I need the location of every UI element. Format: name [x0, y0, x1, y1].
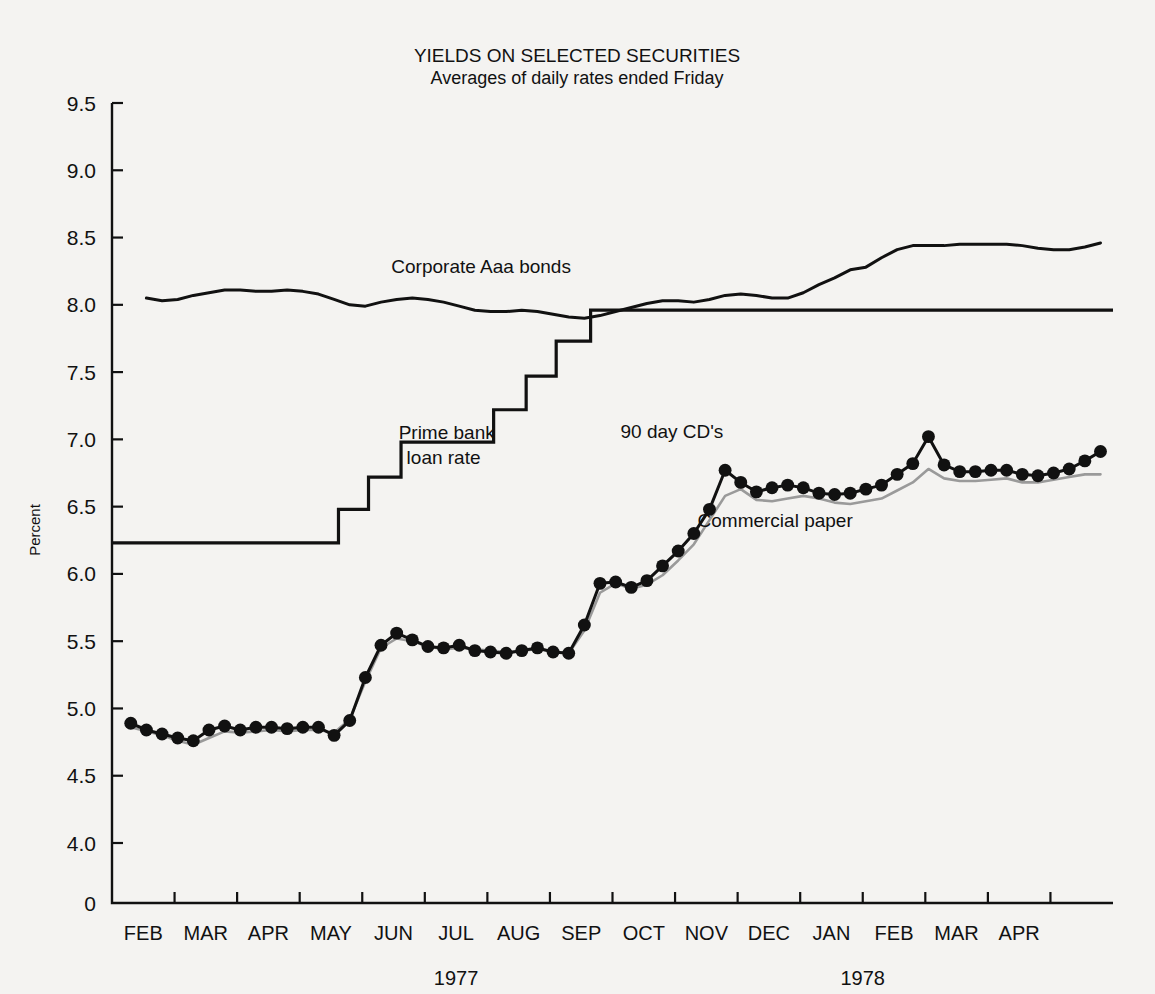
series-marker: [375, 639, 388, 652]
series-marker: [672, 545, 685, 558]
y-tick-label: 8.0: [67, 293, 96, 316]
x-tick-label-feb: FEB: [124, 922, 163, 944]
series-marker: [265, 721, 278, 734]
series-marker: [609, 576, 622, 589]
series-marker: [797, 481, 810, 494]
x-tick-label-apr: APR: [999, 922, 1040, 944]
series-annotation: loan rate: [407, 447, 481, 468]
series-marker: [985, 464, 998, 477]
series-annotation: Prime bank: [399, 422, 496, 443]
series-marker: [500, 647, 513, 660]
y-axis-label: Percent: [26, 503, 43, 556]
chart-subtitle: Averages of daily rates ended Friday: [431, 68, 724, 88]
y-tick-label: 4.0: [67, 832, 96, 855]
year-label: 1977: [434, 967, 479, 989]
series-marker: [1016, 468, 1029, 481]
series-marker: [421, 640, 434, 653]
series-marker: [187, 734, 200, 747]
series-marker: [891, 468, 904, 481]
x-tick-label-feb: FEB: [875, 922, 914, 944]
series-marker: [468, 644, 481, 657]
series-marker: [547, 646, 560, 659]
series-marker: [906, 457, 919, 470]
series-marker: [766, 481, 779, 494]
series-marker: [750, 485, 763, 498]
x-tick-label-apr: APR: [248, 922, 289, 944]
x-tick-label-oct: OCT: [623, 922, 665, 944]
series-marker: [515, 644, 528, 657]
series-marker: [734, 476, 747, 489]
y-tick-label: 5.0: [67, 697, 96, 720]
y-tick-label: 6.5: [67, 495, 96, 518]
series-marker: [1000, 464, 1013, 477]
series-marker: [328, 729, 341, 742]
series-marker: [156, 728, 169, 741]
series-marker: [656, 559, 669, 572]
chart-figure: YIELDS ON SELECTED SECURITIES Averages o…: [0, 0, 1155, 994]
x-tick-label-mar: MAR: [934, 922, 978, 944]
series-marker: [1063, 463, 1076, 476]
series-marker: [203, 724, 216, 737]
series-marker: [594, 577, 607, 590]
series-marker: [531, 641, 544, 654]
y-tick-label: 6.0: [67, 562, 96, 585]
series-marker: [453, 639, 466, 652]
series-marker: [1078, 454, 1091, 467]
y-tick-label: 8.5: [67, 226, 96, 249]
x-tick-label-jun: JUN: [374, 922, 413, 944]
series-marker: [859, 483, 872, 496]
series-marker: [140, 724, 153, 737]
chart-background: [0, 0, 1155, 994]
series-marker: [437, 641, 450, 654]
y-tick-label: 7.0: [67, 428, 96, 451]
series-marker: [640, 574, 653, 587]
series-marker: [562, 647, 575, 660]
chart-title: YIELDS ON SELECTED SECURITIES: [414, 45, 740, 66]
series-marker: [249, 721, 262, 734]
y-tick-label: 0: [84, 892, 96, 915]
series-marker: [578, 619, 591, 632]
series-marker: [1031, 469, 1044, 482]
series-marker: [625, 581, 638, 594]
y-tick-label: 5.5: [67, 630, 96, 653]
series-marker: [875, 479, 888, 492]
series-marker: [938, 458, 951, 471]
series-marker: [828, 488, 841, 501]
series-annotation: Corporate Aaa bonds: [391, 256, 571, 277]
series-marker: [390, 627, 403, 640]
yields-line-chart: YIELDS ON SELECTED SECURITIES Averages o…: [0, 0, 1155, 994]
series-annotation: 90 day CD's: [620, 421, 723, 442]
series-marker: [844, 487, 857, 500]
x-tick-label-nov: NOV: [685, 922, 729, 944]
series-marker: [124, 717, 137, 730]
series-marker: [953, 465, 966, 478]
x-tick-label-mar: MAR: [184, 922, 228, 944]
series-annotation: Commercial paper: [698, 510, 854, 531]
series-marker: [1094, 445, 1107, 458]
year-label: 1978: [841, 967, 886, 989]
series-marker: [719, 464, 732, 477]
x-tick-label-sep: SEP: [561, 922, 601, 944]
series-marker: [406, 633, 419, 646]
series-marker: [312, 721, 325, 734]
series-marker: [781, 479, 794, 492]
series-marker: [813, 487, 826, 500]
series-marker: [281, 722, 294, 735]
series-marker: [484, 646, 497, 659]
y-tick-label: 9.5: [67, 92, 96, 115]
x-tick-label-dec: DEC: [748, 922, 790, 944]
x-tick-label-may: MAY: [310, 922, 352, 944]
series-marker: [343, 714, 356, 727]
series-marker: [1047, 467, 1060, 480]
y-tick-label: 4.5: [67, 764, 96, 787]
series-marker: [359, 671, 372, 684]
y-tick-label: 9.0: [67, 159, 96, 182]
series-marker: [234, 724, 247, 737]
series-marker: [296, 721, 309, 734]
y-tick-label: 7.5: [67, 361, 96, 384]
series-marker: [922, 430, 935, 443]
x-tick-label-jul: JUL: [438, 922, 474, 944]
x-tick-label-jan: JAN: [813, 922, 851, 944]
series-marker: [218, 720, 231, 733]
series-marker: [171, 732, 184, 745]
